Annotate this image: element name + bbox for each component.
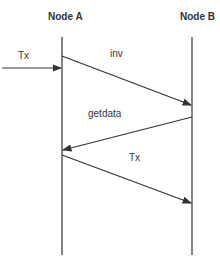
sequence-diagram [0, 0, 220, 261]
arrow-tx [62, 155, 191, 203]
arrow-inv [62, 56, 191, 105]
arrow-getdata [63, 117, 192, 150]
node-b-label: Node B [180, 11, 215, 22]
node-a-label: Node A [48, 11, 83, 22]
message-getdata-label: getdata [88, 108, 121, 119]
message-tx-in-label: Tx [18, 50, 29, 61]
message-tx-label: Tx [129, 152, 140, 163]
message-inv-label: inv [110, 48, 123, 59]
